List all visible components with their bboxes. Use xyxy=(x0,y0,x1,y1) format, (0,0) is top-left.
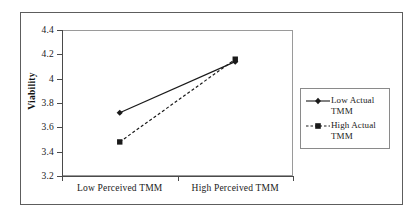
y-axis-tick-mark xyxy=(57,152,62,153)
legend-swatch-dashed-square-icon xyxy=(305,121,331,131)
y-axis-line xyxy=(62,30,63,177)
y-axis-tick-mark xyxy=(57,127,62,128)
legend-label-low-actual-tmm: Low ActualTMM xyxy=(331,95,374,116)
legend-item-high-actual-tmm[interactable]: High ActualTMM xyxy=(305,120,387,141)
legend-item-low-actual-tmm[interactable]: Low ActualTMM xyxy=(305,95,387,116)
x-axis-tick-mark xyxy=(62,176,63,181)
plot-area xyxy=(62,30,293,176)
x-axis-tick-label: High Perceived TMM xyxy=(192,183,279,194)
x-axis-tick-mark xyxy=(178,176,179,181)
figure-container: 4.44.243.83.63.43.2 Viability Low Percei… xyxy=(0,0,420,220)
y-axis-tick-mark xyxy=(57,103,62,104)
y-axis-tick-label: 4.4 xyxy=(22,25,54,35)
y-axis-tick-mark xyxy=(57,30,62,31)
y-axis-title: Viability xyxy=(27,51,37,131)
y-axis-tick-label: 3.2 xyxy=(22,171,54,181)
legend-swatch-solid-diamond-icon xyxy=(305,96,331,106)
x-axis-tick-label: Low Perceived TMM xyxy=(77,183,163,194)
chart-legend: Low ActualTMM High ActualTMM xyxy=(300,88,390,149)
legend-label-high-actual-tmm: High ActualTMM xyxy=(331,120,376,141)
y-axis-tick-label: 3.4 xyxy=(22,147,54,157)
y-axis-tick-mark xyxy=(57,54,62,55)
x-axis-tick-mark xyxy=(293,176,294,181)
y-axis-tick-mark xyxy=(57,79,62,80)
